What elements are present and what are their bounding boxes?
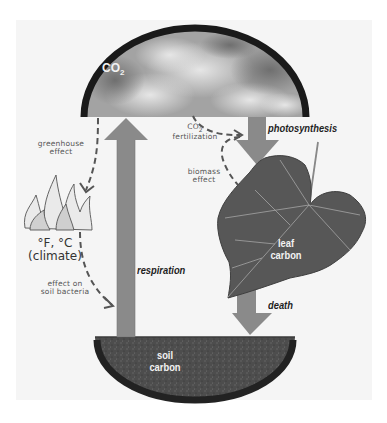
photosynthesis-label: photosynthesis [268,123,337,134]
biomass-effect-label: biomass effect [183,168,225,183]
feedback-dashes [80,116,240,305]
co2-fertilization-label: CO2 fertilization [168,123,222,140]
climate-label: °F, °C (climate) [20,237,90,263]
soil-carbon-label: soil carbon [148,349,182,373]
soil-bowl [90,335,300,405]
greenhouse-effect-label: greenhouse effect [32,140,90,155]
leaf-image [218,142,366,298]
respiration-label: respiration [137,265,185,276]
carbon-cycle-diagram [0,0,387,423]
leaf-carbon-label: leaf carbon [269,237,303,261]
flame-icon [24,175,92,230]
co2-atmosphere-label: CO2 [102,62,124,77]
death-label: death [268,300,293,311]
soil-bacteria-label: effect on soil bacteria [34,280,96,295]
soil-bacteria-arrowhead [104,297,113,308]
